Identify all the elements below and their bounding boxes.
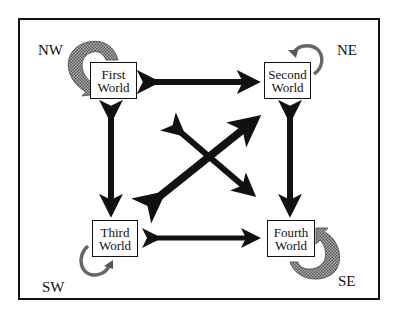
node-third-world: Third World	[92, 220, 138, 257]
node-label-line2: World	[97, 81, 129, 94]
node-label-line2: World	[275, 239, 307, 252]
node-label-line1: Fourth	[274, 226, 309, 239]
corner-label-se: SE	[338, 273, 356, 290]
node-label-line2: World	[99, 239, 131, 252]
corner-label-sw: SW	[42, 279, 65, 296]
node-label-line1: Second	[268, 68, 306, 81]
node-second-world: Second World	[264, 62, 311, 99]
node-first-world: First World	[90, 62, 137, 99]
node-label-line1: Third	[101, 226, 130, 239]
node-label-line2: World	[271, 81, 303, 94]
node-fourth-world: Fourth World	[267, 220, 315, 257]
node-label-line1: First	[102, 68, 126, 81]
corner-label-nw: NW	[38, 42, 63, 59]
corner-label-ne: NE	[337, 42, 357, 59]
arrow-third-second	[155, 124, 250, 200]
